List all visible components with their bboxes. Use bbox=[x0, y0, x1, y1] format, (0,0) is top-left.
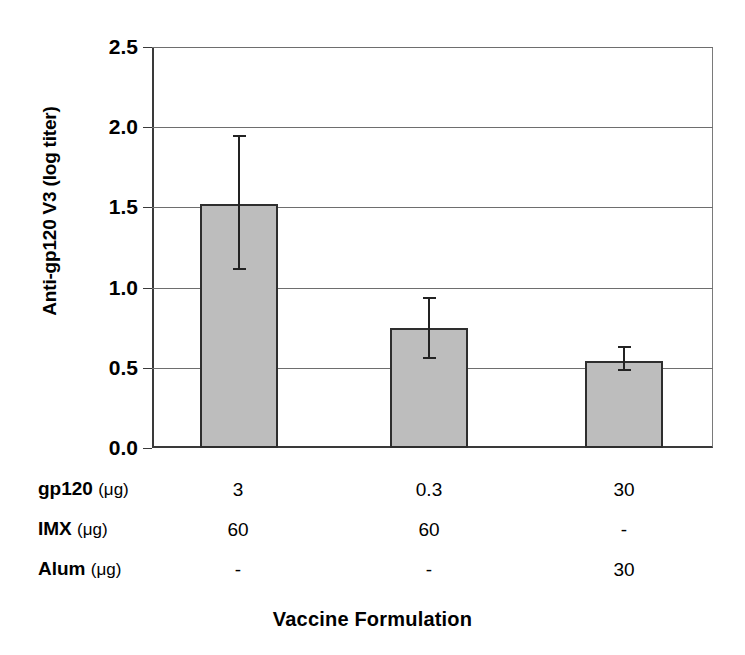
condition-row-alum: Alum (μg) - - 30 bbox=[0, 558, 745, 598]
y-tick-mark-1-0 bbox=[143, 288, 152, 289]
y-tick-label-2-0: 2.0 bbox=[78, 115, 138, 139]
error-bar-cap-upper-3 bbox=[618, 346, 631, 348]
condition-row-gp120: gp120 (μg) 3 0.3 30 bbox=[0, 478, 745, 518]
y-tick-mark-0-5 bbox=[143, 368, 152, 369]
y-tick-mark-2-5 bbox=[143, 47, 152, 48]
condition-cell-imx-col3: - bbox=[564, 519, 684, 541]
y-tick-mark-1-5 bbox=[143, 207, 152, 208]
bar-chart-figure: Anti-gp120 V3 (log titer) 2.5 2.0 1.5 1.… bbox=[0, 0, 745, 655]
y-tick-label-1-0: 1.0 bbox=[78, 276, 138, 300]
condition-cell-gp120-col2: 0.3 bbox=[369, 479, 489, 501]
condition-row-label-alum: Alum (μg) bbox=[38, 558, 121, 580]
error-bar-cap-lower-2 bbox=[423, 357, 436, 359]
condition-table: gp120 (μg) 3 0.3 30 IMX (μg) 60 60 - Alu… bbox=[0, 478, 745, 598]
y-tick-mark-0-0 bbox=[143, 448, 152, 449]
condition-cell-gp120-col1: 3 bbox=[178, 479, 298, 501]
gridline-2-5 bbox=[152, 47, 713, 48]
error-bar-stem-3 bbox=[623, 346, 625, 369]
y-tick-label-0-5: 0.5 bbox=[78, 356, 138, 380]
condition-row-unit-alum: (μg) bbox=[91, 560, 122, 579]
condition-cell-imx-col1: 60 bbox=[178, 519, 298, 541]
condition-row-label-imx: IMX (μg) bbox=[38, 518, 108, 540]
condition-cell-alum-col3: 30 bbox=[564, 559, 684, 581]
condition-cell-alum-col1: - bbox=[178, 559, 298, 581]
condition-row-name-gp120: gp120 bbox=[38, 478, 93, 499]
bar-3 bbox=[585, 361, 663, 448]
y-tick-label-1-5: 1.5 bbox=[78, 195, 138, 219]
condition-row-name-imx: IMX bbox=[38, 518, 72, 539]
error-bar-cap-upper-1 bbox=[233, 135, 246, 137]
x-axis-title: Vaccine Formulation bbox=[0, 608, 745, 631]
error-bar-cap-upper-2 bbox=[423, 297, 436, 299]
condition-row-unit-imx: (μg) bbox=[77, 520, 108, 539]
gridline-2-0 bbox=[152, 127, 713, 128]
condition-row-imx: IMX (μg) 60 60 - bbox=[0, 518, 745, 558]
error-bar-cap-lower-3 bbox=[618, 369, 631, 371]
plot-area: 2.5 2.0 1.5 1.0 0.5 0.0 bbox=[152, 47, 713, 448]
error-bar-cap-lower-1 bbox=[233, 268, 246, 270]
y-tick-label-2-5: 2.5 bbox=[78, 35, 138, 59]
condition-row-label-gp120: gp120 (μg) bbox=[38, 478, 129, 500]
y-tick-label-0-0: 0.0 bbox=[78, 436, 138, 460]
condition-cell-alum-col2: - bbox=[369, 559, 489, 581]
condition-cell-imx-col2: 60 bbox=[369, 519, 489, 541]
condition-cell-gp120-col3: 30 bbox=[564, 479, 684, 501]
error-bar-stem-1 bbox=[238, 135, 240, 268]
y-tick-mark-2-0 bbox=[143, 127, 152, 128]
error-bar-stem-2 bbox=[428, 297, 430, 356]
y-axis-title: Anti-gp120 V3 (log titer) bbox=[39, 11, 61, 411]
condition-row-unit-gp120: (μg) bbox=[98, 480, 129, 499]
condition-row-name-alum: Alum bbox=[38, 558, 86, 579]
